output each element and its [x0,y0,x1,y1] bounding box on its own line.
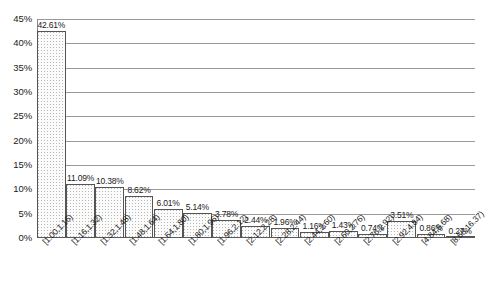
y-tick-label: 10% [13,184,32,194]
bars-layer: 42.61%11.09%10.38%8.62%6.01%5.14%3.78%2.… [37,19,475,238]
bar-slot: 1.43% [329,19,358,238]
bar-slot: 1.96% [271,19,300,238]
y-tick-label: 25% [13,111,32,121]
plot-area: 42.61%11.09%10.38%8.62%6.01%5.14%3.78%2.… [37,19,475,238]
bar-value-label: 8.62% [127,186,150,195]
bar-slot: 2.44% [241,19,270,238]
bar[interactable] [37,31,66,238]
bar-slot: 5.14% [183,19,212,238]
bar-value-label: 6.01% [157,199,180,208]
y-axis: 0%5%10%15%20%25%30%35%40%45% [0,0,35,300]
bar-slot: 6.01% [154,19,183,238]
y-tick-label: 0% [18,233,32,243]
bar-slot: 0.86% [417,19,446,238]
bar-slot: 3.78% [212,19,241,238]
bar-value-label: 42.61% [38,21,66,30]
bar-value-label: 5.14% [186,203,209,212]
bar-slot: 42.61% [37,19,66,238]
y-tick-label: 5% [18,209,32,219]
bar-value-label: 10.38% [96,177,124,186]
bar-slot: 11.09% [66,19,95,238]
bar-slot: 0.74% [358,19,387,238]
bar-value-label: 11.09% [67,174,94,183]
x-axis-labels: [1.00,1.16)[1.16,1.32)[1.32,1.48)[1.48,1… [37,240,475,300]
histogram-chart: 0%5%10%15%20%25%30%35%40%45% 42.61%11.09… [0,0,499,300]
y-tick-label: 20% [13,136,32,146]
bar-slot: 1.16% [300,19,329,238]
bar-slot: 0.27% [446,19,475,238]
bar-slot: 8.62% [125,19,154,238]
y-tick-label: 45% [13,14,32,24]
y-tick-label: 35% [13,63,32,73]
y-tick-label: 30% [13,87,32,97]
y-tick-label: 40% [13,38,32,48]
bar-slot: 3.51% [387,19,416,238]
bar-slot: 10.38% [95,19,124,238]
y-tick-label: 15% [13,160,32,170]
